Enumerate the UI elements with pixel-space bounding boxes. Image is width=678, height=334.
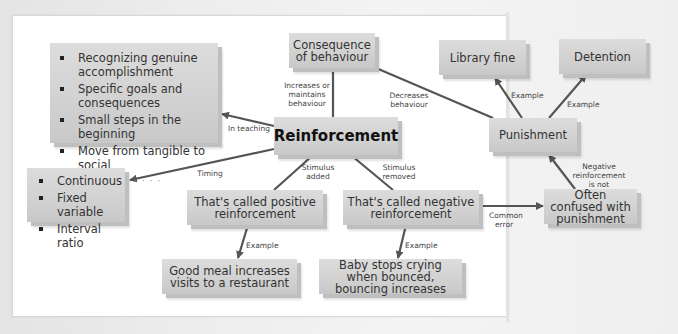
edge-label-common-error: Common error (489, 211, 519, 229)
node-punishment-label: Punishment (499, 129, 567, 141)
node-detention-label: Detention (574, 51, 631, 63)
timing-item: Interval ratio (49, 222, 122, 250)
node-consequence-label: Consequence of behaviour (293, 39, 371, 63)
timing-item: Continuous (49, 174, 122, 188)
node-punishment: Punishment (489, 118, 577, 152)
node-baby-label: Baby stops crying when bounced, bouncing… (323, 259, 458, 295)
node-teaching-list: Recognizing genuine accomplishment Speci… (50, 43, 218, 143)
edge-label-stimulus-added: Stimulus added (301, 163, 335, 181)
node-good-meal: Good meal increases visits to a restaura… (162, 259, 297, 294)
node-reinforcement-label: Reinforcement (274, 130, 399, 142)
teaching-item: Recognizing genuine accomplishment (70, 51, 210, 79)
node-baby: Baby stops crying when bounced, bouncing… (319, 259, 462, 294)
node-positive: That's called positive reinforcement (187, 190, 323, 225)
edge-label-example-detention: Example (567, 100, 601, 109)
timing-item: Fixed variable (49, 191, 122, 219)
node-reinforcement: Reinforcement (274, 117, 398, 155)
edge-label-example-positive: Example (246, 241, 280, 250)
node-positive-label: That's called positive reinforcement (191, 196, 319, 220)
teaching-item: Small steps in the beginning (70, 113, 210, 141)
edge-label-example-fine: Example (511, 91, 545, 100)
node-library-fine: Library fine (439, 40, 526, 75)
node-library-fine-label: Library fine (450, 52, 515, 64)
edge-label-stimulus-removed: Stimulus removed (379, 163, 419, 181)
node-timing-list: Continuous Fixed variable Interval ratio (27, 168, 125, 222)
node-consequence: Consequence of behaviour (289, 33, 375, 68)
edge-label-in-teaching: In teaching (224, 124, 274, 133)
edge-label-decreases: Decreases behaviour (387, 91, 431, 109)
edge-label-increases: Increases or maintains behaviour (284, 81, 330, 108)
node-negative: That's called negative reinforcement (343, 190, 479, 225)
node-detention: Detention (559, 39, 646, 74)
node-confused: Often confused with punishment (544, 189, 637, 224)
node-confused-label: Often confused with punishment (548, 189, 633, 225)
edge-label-example-negative: Example (405, 241, 439, 250)
edge-label-timing: Timing (195, 169, 225, 178)
teaching-item: Specific goals and consequences (70, 82, 210, 110)
edge-label-negative-not: Negative reinforcement is not (571, 162, 627, 189)
node-negative-label: That's called negative reinforcement (347, 196, 475, 220)
node-good-meal-label: Good meal increases visits to a restaura… (166, 265, 293, 289)
